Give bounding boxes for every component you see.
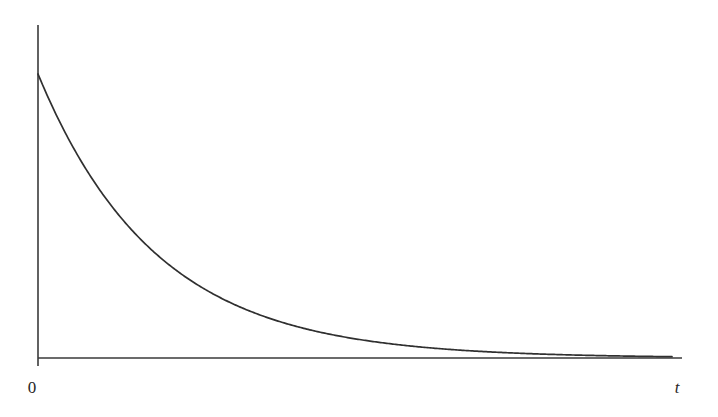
origin-tick-label: 0 <box>28 378 37 397</box>
plot-background <box>0 0 718 417</box>
figure-container: 0 t <box>0 0 718 417</box>
exponential-decay-plot: 0 t <box>0 0 718 417</box>
